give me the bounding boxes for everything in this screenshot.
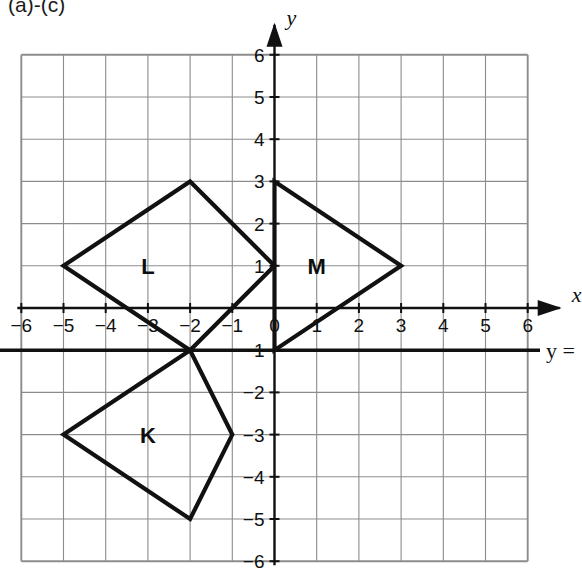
x-axis-name: x <box>571 282 582 307</box>
shape-label-k: K <box>140 423 156 448</box>
reflection-line-label: y = <box>546 338 575 363</box>
x-tick-label: 4 <box>438 315 449 336</box>
x-tick-label: 2 <box>354 315 365 336</box>
y-tick-label: −4 <box>243 467 265 488</box>
y-tick-label: −6 <box>243 551 265 572</box>
x-tick-label: 6 <box>522 315 533 336</box>
x-tick-label: −5 <box>53 315 75 336</box>
shape-label-l: L <box>141 254 154 279</box>
x-tick-label: 3 <box>396 315 407 336</box>
shape-label-m: M <box>308 254 326 279</box>
y-tick-label: 4 <box>254 129 265 150</box>
x-tick-label: −2 <box>179 315 201 336</box>
y-tick-label: −3 <box>243 425 265 446</box>
x-axis-arrow <box>538 300 562 316</box>
y-tick-label: −5 <box>243 509 265 530</box>
figure-canvas: (a)-(c) −6−5−4−3−2−10123456654321−1−2−3−… <box>0 0 582 586</box>
x-tick-label: −4 <box>95 315 117 336</box>
x-tick-label: 5 <box>480 315 491 336</box>
y-tick-label: 6 <box>254 45 265 66</box>
x-tick-label: −6 <box>10 315 32 336</box>
y-tick-label: −2 <box>243 382 265 403</box>
y-tick-label: 3 <box>254 171 265 192</box>
axis-name-labels: xy <box>285 5 582 307</box>
y-tick-label: 1 <box>254 256 265 277</box>
y-axis-name: y <box>285 5 297 30</box>
y-axis-arrow <box>267 23 283 47</box>
coordinate-plane: −6−5−4−3−2−10123456654321−1−2−3−4−5−6 y … <box>0 0 582 586</box>
y-tick-label: 2 <box>254 214 265 235</box>
axis-lines <box>17 23 561 565</box>
y-tick-label: 5 <box>254 87 265 108</box>
